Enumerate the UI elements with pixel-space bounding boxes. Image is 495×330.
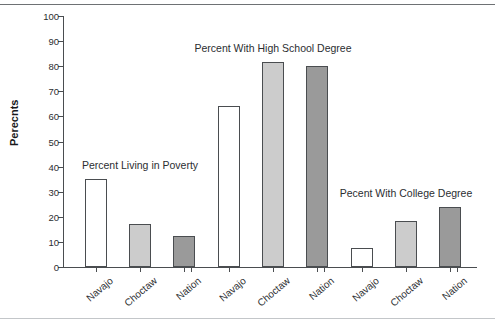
- category-label-choctaw: Choctaw: [122, 275, 159, 308]
- y-tick-label: 40: [48, 161, 59, 172]
- group-title: Percent Living in Poverty: [82, 159, 198, 171]
- y-tick-label: 30: [48, 186, 59, 197]
- y-tick-label: 50: [48, 136, 59, 147]
- bar: [262, 62, 284, 267]
- figure-top-rule: [0, 4, 495, 5]
- category-label-choctaw: Choctaw: [388, 275, 425, 308]
- x-axis-line: [63, 267, 477, 268]
- y-tick-label: 100: [43, 11, 59, 22]
- category-label-nation: Nation: [307, 275, 336, 302]
- y-tick-label: 60: [48, 111, 59, 122]
- category-label-nation: Nation: [440, 275, 469, 302]
- bar: [395, 221, 417, 267]
- x-tick: [273, 267, 274, 272]
- bar: [439, 207, 461, 267]
- category-label-nation: Nation: [174, 275, 203, 302]
- bar-chart-figure: Perecnts 0102030405060708090100 Percent …: [0, 0, 495, 330]
- y-tick-label: 70: [48, 86, 59, 97]
- x-tick: [457, 267, 458, 272]
- x-tick: [191, 267, 192, 272]
- y-tick-label: 80: [48, 61, 59, 72]
- y-tick-label: 90: [48, 36, 59, 47]
- x-tick: [324, 267, 325, 272]
- group-title: Percent With High School Degree: [195, 42, 352, 54]
- figure-bottom-rule: [0, 318, 495, 319]
- y-tick-label: 20: [48, 211, 59, 222]
- bar: [173, 236, 195, 267]
- plot-area: 0102030405060708090100 Percent Living in…: [63, 16, 477, 268]
- category-label-navajo: Navajo: [350, 275, 381, 303]
- x-tick: [140, 267, 141, 272]
- y-axis-line: [63, 16, 64, 268]
- bar: [129, 224, 151, 267]
- x-tick: [406, 267, 407, 272]
- x-tick: [317, 267, 318, 272]
- category-label-choctaw: Choctaw: [255, 275, 292, 308]
- bar: [218, 106, 240, 267]
- x-tick: [362, 267, 363, 272]
- bar: [351, 248, 373, 267]
- x-tick: [184, 267, 185, 272]
- group-title: Pecent With College Degree: [340, 187, 473, 199]
- bar: [85, 179, 107, 267]
- bar: [306, 66, 328, 267]
- category-label-navajo: Navajo: [217, 275, 248, 303]
- y-axis-title: Perecnts: [8, 100, 20, 146]
- y-tick-label: 10: [48, 236, 59, 247]
- y-tick-label: 0: [54, 262, 59, 273]
- category-label-navajo: Navajo: [84, 275, 115, 303]
- x-tick: [450, 267, 451, 272]
- x-tick: [229, 267, 230, 272]
- x-tick: [96, 267, 97, 272]
